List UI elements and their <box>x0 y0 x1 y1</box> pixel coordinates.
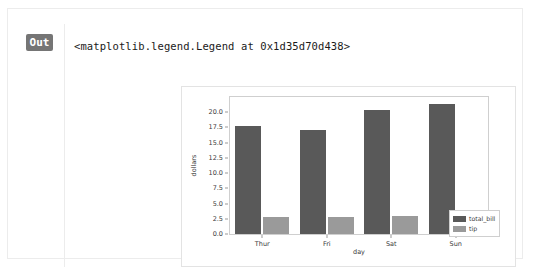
x-tick-label: Sun <box>450 240 462 248</box>
bar-tip-Thur <box>263 217 289 234</box>
y-tick-mark <box>225 112 228 113</box>
x-tick-mark <box>326 235 327 238</box>
repr-text: <matplotlib.legend.Legend at 0x1d35d70d4… <box>74 40 350 52</box>
y-tick-mark <box>225 188 228 189</box>
bar-total_bill-Thur <box>235 126 261 234</box>
y-tick-label: 10.0 <box>209 169 223 177</box>
bar-tip-Fri <box>328 217 354 234</box>
matplotlib-figure: dollars 0.02.55.07.510.012.515.017.520.0… <box>181 86 516 267</box>
x-tick-mark <box>262 235 263 238</box>
y-tick-mark <box>225 157 228 158</box>
y-tick-label: 12.5 <box>209 154 223 162</box>
x-tick-label: Thur <box>255 240 270 248</box>
y-tick-label: 17.5 <box>209 123 223 131</box>
legend-label: tip <box>469 224 477 233</box>
legend-label: total_bill <box>469 214 495 223</box>
y-tick-mark <box>225 234 228 235</box>
output-area: <matplotlib.legend.Legend at 0x1d35d70d4… <box>64 24 530 267</box>
y-tick-mark <box>225 218 228 219</box>
x-tick-mark <box>391 235 392 238</box>
y-tick-label: 7.5 <box>213 184 223 192</box>
x-tick-label: Fri <box>323 240 331 248</box>
bar-total_bill-Sat <box>364 110 390 234</box>
y-tick-label: 20.0 <box>209 108 223 116</box>
chart-legend: total_billtip <box>449 210 500 237</box>
bar-total_bill-Fri <box>300 130 326 234</box>
y-tick-mark <box>225 173 228 174</box>
bar-tip-Sat <box>392 216 418 234</box>
y-tick-label: 0.0 <box>213 230 223 238</box>
notebook-output-cell: Out <matplotlib.legend.Legend at 0x1d35d… <box>7 8 523 259</box>
legend-entry-total_bill: total_bill <box>453 214 495 223</box>
x-axis-label: day <box>229 248 489 256</box>
y-tick-label: 5.0 <box>213 200 223 208</box>
legend-swatch-icon <box>453 226 466 232</box>
y-tick-mark <box>225 203 228 204</box>
x-axis-ticks: ThurFriSatSun <box>229 235 489 249</box>
y-tick-mark <box>225 142 228 143</box>
y-tick-label: 2.5 <box>213 215 223 223</box>
x-tick-label: Sat <box>386 240 397 248</box>
legend-swatch-icon <box>453 216 466 222</box>
y-axis-ticks: 0.02.55.07.510.012.515.017.520.0 <box>182 96 228 235</box>
y-tick-label: 15.0 <box>209 139 223 147</box>
legend-entry-tip: tip <box>453 224 495 233</box>
out-prompt-badge: Out <box>26 34 53 51</box>
y-tick-mark <box>225 127 228 128</box>
